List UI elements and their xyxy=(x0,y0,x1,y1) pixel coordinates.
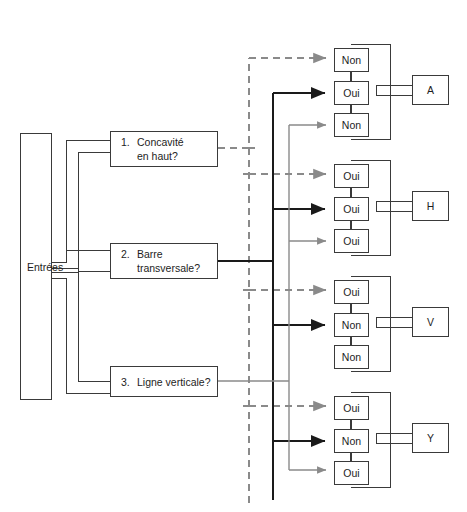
answer-box-a-2[interactable]: Oui xyxy=(334,81,369,105)
answer-box-v-2[interactable]: Non xyxy=(334,313,369,337)
question1-dashed-branches xyxy=(249,58,326,406)
output-box-y[interactable]: Y xyxy=(412,423,449,453)
question-1-number: 1. xyxy=(121,135,137,149)
answer-label: Oui xyxy=(343,286,359,298)
group-collector-brackets xyxy=(351,44,412,487)
answer-box-h-3[interactable]: Oui xyxy=(334,229,369,253)
question3-gray-trunk xyxy=(218,125,289,470)
answer-label: Oui xyxy=(343,170,359,182)
answer-box-v-1[interactable]: Oui xyxy=(334,280,369,304)
answer-box-h-1[interactable]: Oui xyxy=(334,164,369,188)
answer-box-y-3[interactable]: Oui xyxy=(334,461,369,485)
output-box-a[interactable]: A xyxy=(412,75,449,105)
question3-gray-branches xyxy=(289,125,326,470)
input-box-entrees[interactable]: Entrées xyxy=(20,133,52,400)
answer-box-y-1[interactable]: Oui xyxy=(334,396,369,420)
question-1-line2: en haut? xyxy=(121,149,184,163)
question-3-line1: Ligne verticale? xyxy=(137,375,211,389)
flowchart-canvas: Entrées 1.Concavité en haut? 2.Barre tra… xyxy=(0,0,467,512)
question-box-3[interactable]: 3.Ligne verticale? xyxy=(110,366,218,397)
question2-black-trunk xyxy=(218,93,273,500)
answer-label: Non xyxy=(342,54,361,66)
answer-box-y-2[interactable]: Non xyxy=(334,429,369,453)
answer-box-h-2[interactable]: Oui xyxy=(334,197,369,221)
answer-label: Oui xyxy=(343,235,359,247)
answer-label: Oui xyxy=(343,87,359,99)
question-2-line2: transversale? xyxy=(121,261,200,275)
question-3-number: 3. xyxy=(121,375,137,389)
output-box-v[interactable]: V xyxy=(412,307,449,337)
question-1-line1: Concavité xyxy=(137,135,184,149)
question-2-number: 2. xyxy=(121,247,137,261)
answer-box-a-3[interactable]: Non xyxy=(334,113,369,137)
output-letter: V xyxy=(427,316,434,328)
output-letter: H xyxy=(427,200,435,212)
answer-box-a-1[interactable]: Non xyxy=(334,48,369,72)
answer-label: Non xyxy=(342,435,361,447)
answer-label: Non xyxy=(342,351,361,363)
question-box-1[interactable]: 1.Concavité en haut? xyxy=(110,131,218,167)
answer-label: Oui xyxy=(343,203,359,215)
input-box-label: Entrées xyxy=(27,261,63,273)
answer-label: Non xyxy=(342,319,361,331)
dashed-trunk-ticks xyxy=(243,148,255,406)
question1-dashed-trunk xyxy=(218,58,249,508)
question-box-2[interactable]: 2.Barre transversale? xyxy=(110,243,218,279)
output-letter: A xyxy=(427,84,434,96)
output-letter: Y xyxy=(427,432,434,444)
question2-black-branches xyxy=(273,93,325,441)
answer-box-v-3[interactable]: Non xyxy=(334,345,369,369)
answer-label: Non xyxy=(342,119,361,131)
answer-label: Oui xyxy=(343,402,359,414)
question-2-line1: Barre xyxy=(137,247,163,261)
connector-lines xyxy=(0,0,467,512)
output-box-h[interactable]: H xyxy=(412,191,449,221)
answer-label: Oui xyxy=(343,467,359,479)
